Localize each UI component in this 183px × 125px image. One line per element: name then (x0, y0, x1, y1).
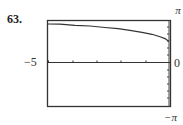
plot-frame (48, 21, 171, 107)
y-min-label: −π (164, 111, 177, 123)
x-max-label: 0 (174, 57, 180, 69)
function-curve (48, 24, 169, 42)
x-min-label: −5 (24, 56, 37, 68)
y-max-label: π (175, 4, 181, 16)
